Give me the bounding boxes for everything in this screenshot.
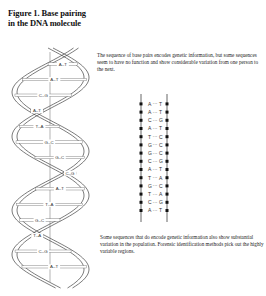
helix-pair-label: G–C	[45, 140, 54, 145]
base-right: T	[159, 109, 162, 115]
base-left: C	[148, 117, 152, 123]
sugar-phosphate-node	[166, 135, 169, 138]
hydrogen-bond: ···	[153, 166, 158, 172]
base-right: C	[159, 134, 163, 140]
helix-pair-label: C–G	[65, 171, 75, 176]
helix-pair-label: G–C	[55, 155, 64, 160]
base-left: A	[148, 166, 152, 172]
base-left: A	[148, 109, 152, 115]
base-left: A	[148, 207, 152, 213]
helix-pair-label: A–T	[56, 186, 64, 191]
sugar-phosphate-node	[140, 209, 143, 212]
sugar-phosphate-node	[166, 160, 169, 163]
helix-pair-label: C–G	[39, 249, 49, 254]
hydrogen-bond: ···	[153, 125, 158, 131]
base-left: T	[148, 191, 151, 197]
sugar-phosphate-node	[140, 152, 143, 155]
sugar-phosphate-node	[166, 193, 169, 196]
hydrogen-bond: ···	[153, 141, 158, 147]
sugar-phosphate-node	[140, 127, 143, 130]
sugar-phosphate-node	[140, 201, 143, 204]
hydrogen-bond: ···	[153, 100, 158, 106]
helix-pair-label: T–A	[45, 202, 53, 207]
base-right: G	[159, 158, 163, 164]
base-left: G	[148, 150, 152, 156]
helix-pair-label: T–A	[33, 233, 41, 238]
sugar-phosphate-node	[140, 143, 143, 146]
helix-pair-label: G–C	[35, 218, 44, 223]
sugar-phosphate-node	[140, 176, 143, 179]
sugar-phosphate-node	[166, 111, 169, 114]
hydrogen-bond: ···	[153, 182, 158, 188]
sugar-phosphate-node	[140, 102, 143, 105]
base-left: T	[148, 134, 151, 140]
sugar-phosphate-node	[166, 168, 169, 171]
helix-pair-label: A–T	[50, 77, 58, 82]
sugar-phosphate-node	[140, 111, 143, 114]
base-right: T	[159, 166, 162, 172]
hydrogen-bond: ···	[153, 199, 158, 205]
sugar-phosphate-node	[140, 119, 143, 122]
hydrogen-bond: ···	[153, 158, 158, 164]
sugar-phosphate-node	[166, 209, 169, 212]
hydrogen-bond: ···	[153, 207, 158, 213]
helix-pair-label: A–T	[33, 108, 41, 113]
base-right: C	[159, 183, 163, 189]
base-left: A	[148, 125, 152, 131]
base-right: A	[159, 175, 163, 181]
base-right: T	[159, 207, 162, 213]
hydrogen-bond: ···	[153, 191, 158, 197]
base-pair-ladder: A···TA···TC···GA···TT···CG···CG···CC···G…	[140, 94, 169, 222]
base-left: C	[148, 158, 152, 164]
sugar-phosphate-node	[166, 143, 169, 146]
sugar-phosphate-node	[166, 184, 169, 187]
base-right: G	[159, 117, 163, 123]
base-right: T	[159, 101, 162, 107]
hydrogen-bond: ···	[153, 133, 158, 139]
base-right: G	[159, 199, 163, 205]
helix-pair-label: A–T	[50, 264, 58, 269]
base-left: C	[148, 199, 152, 205]
base-right: C	[159, 150, 163, 156]
sugar-phosphate-node	[166, 201, 169, 204]
sugar-phosphate-node	[166, 176, 169, 179]
helix-pair-label: A–T	[59, 62, 67, 67]
sugar-phosphate-node	[140, 184, 143, 187]
sugar-phosphate-node	[140, 193, 143, 196]
base-right: C	[159, 142, 163, 148]
helix-pair-label: C–G	[39, 93, 49, 98]
sugar-phosphate-node	[166, 119, 169, 122]
base-left: G	[148, 142, 152, 148]
sugar-phosphate-node	[140, 168, 143, 171]
sugar-phosphate-node	[140, 160, 143, 163]
sugar-phosphate-node	[166, 127, 169, 130]
base-right: A	[159, 191, 163, 197]
base-left: G	[148, 183, 152, 189]
hydrogen-bond: ···	[153, 150, 158, 156]
hydrogen-bond: ···	[153, 174, 158, 180]
hydrogen-bond: ···	[153, 117, 158, 123]
hydrogen-bond: ···	[153, 109, 158, 115]
double-helix: A–TA–TC–GA–TT–AG–CG–CC–GA–TT–AG–CT–AC–GA…	[12, 48, 89, 288]
base-right: T	[159, 125, 162, 131]
sugar-phosphate-node	[166, 152, 169, 155]
sugar-phosphate-node	[140, 135, 143, 138]
base-left: T	[148, 175, 151, 181]
base-left: A	[148, 101, 152, 107]
dna-diagram: A–TA–TC–GA–TT–AG–CG–CC–GA–TT–AG–CT–AC–GA…	[0, 0, 266, 296]
helix-pair-label: T–A	[35, 124, 43, 129]
sugar-phosphate-node	[166, 102, 169, 105]
